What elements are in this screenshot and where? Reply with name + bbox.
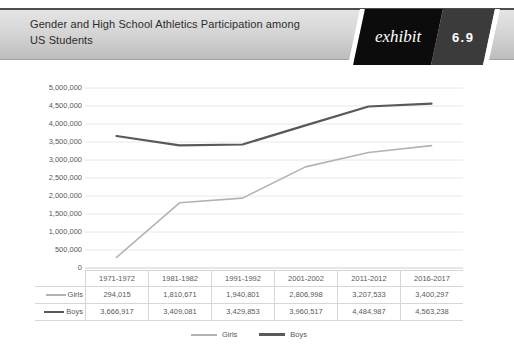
table-value-cell: 3,400,297 xyxy=(400,287,463,304)
table-year-header: 1991-1992 xyxy=(211,270,274,287)
exhibit-badge: exhibit 6.9 xyxy=(348,9,500,65)
table-year-header: 2016-2017 xyxy=(400,270,463,287)
table-year-header: 1981-1982 xyxy=(148,270,211,287)
page-title-line2: US Students xyxy=(30,32,360,48)
y-axis-tick-label: 3,000,000 xyxy=(30,155,82,165)
table-value-cell: 1,940,801 xyxy=(211,287,274,304)
table-value-cell: 3,666,917 xyxy=(85,304,148,321)
line-chart-plot-area xyxy=(85,84,463,270)
legend-swatch xyxy=(259,333,285,336)
table-value-cell: 294,015 xyxy=(85,287,148,304)
table-value-cell: 3,409,081 xyxy=(148,304,211,321)
chart-legend: GirlsBoys xyxy=(35,330,463,339)
chart-data-table: 1971-19721981-19821991-19922001-20022011… xyxy=(35,270,463,321)
table-series-key-girls: Girls xyxy=(35,287,85,304)
table-year-header: 2011-2012 xyxy=(337,270,400,287)
legend-label: Boys xyxy=(290,330,307,339)
y-axis-tick-label: 4,000,000 xyxy=(30,119,82,129)
y-axis-tick-label: 2,500,000 xyxy=(30,173,82,183)
y-axis-tick-label: 2,000,000 xyxy=(30,191,82,201)
y-axis-tick-label: 3,500,000 xyxy=(30,137,82,147)
series-key-label: Girls xyxy=(68,287,83,303)
table-year-header: 1971-1972 xyxy=(85,270,148,287)
y-axis-tick-label: 1,500,000 xyxy=(30,209,82,219)
legend-item-boys: Boys xyxy=(259,330,307,339)
y-axis-tick-label: 500,000 xyxy=(30,245,82,255)
series-key-swatch xyxy=(44,311,64,314)
table-value-cell: 2,806,998 xyxy=(274,287,337,304)
table-value-cell: 3,960,517 xyxy=(274,304,337,321)
page-title-line1: Gender and High School Athletics Partici… xyxy=(30,16,360,32)
exhibit-label-box: exhibit xyxy=(353,9,443,65)
legend-item-girls: Girls xyxy=(191,330,237,339)
table-value-cell: 3,429,853 xyxy=(211,304,274,321)
table-series-key-boys: Boys xyxy=(35,304,85,321)
series-key-swatch xyxy=(46,294,66,296)
series-key-label: Boys xyxy=(66,304,83,320)
y-axis-tick-label: 1,000,000 xyxy=(30,227,82,237)
table-corner-cell xyxy=(35,270,85,287)
legend-swatch xyxy=(191,334,217,336)
legend-label: Girls xyxy=(222,330,237,339)
table-value-cell: 1,810,671 xyxy=(148,287,211,304)
table-value-cell: 3,207,533 xyxy=(337,287,400,304)
exhibit-label: exhibit xyxy=(375,27,421,47)
table-value-cell: 4,484,987 xyxy=(337,304,400,321)
y-axis-tick-label: 5,000,000 xyxy=(30,83,82,93)
page-title: Gender and High School Athletics Partici… xyxy=(30,16,360,48)
series-line-girls xyxy=(117,146,432,258)
exhibit-number: 6.9 xyxy=(452,30,475,45)
table-year-header: 2001-2002 xyxy=(274,270,337,287)
table-value-cell: 4,563,238 xyxy=(400,304,463,321)
y-axis-tick-label: 4,500,000 xyxy=(30,101,82,111)
